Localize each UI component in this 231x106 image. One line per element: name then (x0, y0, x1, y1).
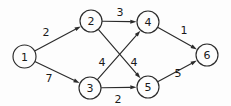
edge-weight-5-6: 5 (175, 67, 182, 80)
node-label-3: 3 (87, 82, 94, 95)
node-label-1: 1 (21, 51, 28, 64)
graph-canvas: 123456 27344215 (0, 0, 231, 106)
node-label-5: 5 (145, 81, 152, 94)
arrow-head-icon-2-4 (130, 20, 136, 24)
graph-node-1[interactable]: 1 (13, 45, 36, 68)
arrow-head-icon-3-5 (130, 85, 136, 89)
edges-layer (35, 20, 197, 90)
graph-node-4[interactable]: 4 (137, 11, 159, 33)
edge-weight-3-4: 4 (99, 56, 106, 69)
node-label-6: 6 (204, 49, 211, 62)
edge-weight-1-2: 2 (43, 26, 50, 39)
graph-node-3[interactable]: 3 (79, 77, 101, 99)
arrow-head-icon-1-3 (73, 79, 79, 83)
edge-weight-2-5: 4 (131, 56, 138, 69)
graph-node-5[interactable]: 5 (137, 76, 159, 98)
arrow-head-icon-5-6 (190, 60, 196, 65)
arrow-head-icon-4-6 (191, 45, 197, 50)
edge-line-1-2 (35, 29, 75, 51)
graph-figure: 123456 27344215 (0, 0, 231, 106)
graph-node-2[interactable]: 2 (80, 10, 102, 32)
edge-labels-layer: 27344215 (43, 6, 188, 106)
node-label-2: 2 (88, 15, 95, 28)
node-label-4: 4 (145, 16, 152, 29)
arrow-head-icon-1-2 (74, 26, 80, 31)
graph-node-6[interactable]: 6 (196, 44, 218, 66)
edge-line-1-3 (35, 62, 74, 81)
edge-weight-1-3: 7 (46, 72, 53, 85)
edge-weight-2-4: 3 (117, 6, 124, 19)
edge-weight-3-5: 2 (115, 93, 122, 106)
edge-weight-4-6: 1 (181, 24, 188, 37)
